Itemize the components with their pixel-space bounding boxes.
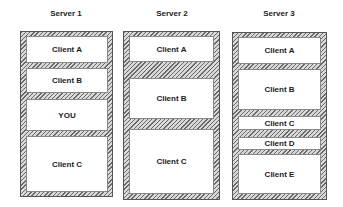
server-1: Client A Client B YOU Client C	[20, 31, 113, 197]
server-3-client-e: Client E	[238, 154, 321, 194]
server-2-title: Server 2	[122, 9, 222, 18]
server-3-client-b: Client B	[238, 69, 321, 110]
server-1-client-c: Client C	[26, 136, 108, 192]
server-3: Client A Client B Client C Client D Clie…	[232, 32, 327, 200]
server-3-client-d: Client D	[238, 137, 321, 150]
server-2-client-c: Client C	[129, 129, 214, 194]
server-1-title: Server 1	[16, 9, 116, 18]
server-3-client-a: Client A	[238, 37, 321, 64]
server-1-you: YOU	[26, 99, 108, 131]
server-2: Client A Client B Client C	[123, 31, 220, 200]
server-2-client-b: Client B	[129, 78, 214, 119]
server-1-client-b: Client B	[26, 68, 108, 93]
server-3-client-c: Client C	[238, 116, 321, 130]
server-3-title: Server 3	[229, 9, 329, 18]
server-1-client-a: Client A	[26, 36, 108, 63]
server-2-client-a: Client A	[129, 36, 214, 62]
